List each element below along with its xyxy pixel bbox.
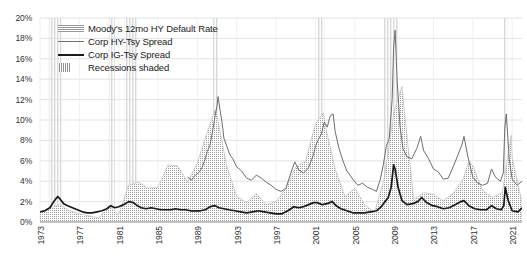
y-axis-label: 20% — [2, 13, 32, 23]
x-axis-label: 1993 — [233, 226, 243, 245]
legend-item-ig-spread: Corp IG-Tsy Spread — [58, 48, 218, 61]
y-axis-label: 0% — [2, 217, 32, 227]
y-axis-label: 4% — [2, 176, 32, 186]
y-axis-label: 10% — [2, 115, 32, 125]
x-axis-label: 1997 — [272, 226, 282, 245]
legend-label-ig-spread: Corp IG-Tsy Spread — [88, 49, 170, 60]
legend-swatch-shaded-band-icon — [58, 62, 84, 73]
x-axis-label: 2013 — [429, 226, 439, 245]
chart-container: 0%2%4%6%8%10%12%14%16%18%20% 19731977198… — [0, 0, 527, 260]
y-axis-label: 16% — [2, 54, 32, 64]
legend-swatch-thin-line-icon — [58, 36, 84, 47]
y-axis-label: 8% — [2, 135, 32, 145]
x-axis-label: 2021 — [508, 226, 518, 245]
legend-label-recessions: Recessions shaded — [88, 62, 169, 73]
x-axis-label: 1981 — [115, 226, 125, 245]
legend-item-hy-spread: Corp HY-Tsy Spread — [58, 35, 218, 48]
chart-legend: Moody's 12mo HY Default Rate Corp HY-Tsy… — [58, 22, 218, 74]
x-axis-label: 1989 — [193, 226, 203, 245]
y-axis-label: 14% — [2, 74, 32, 84]
x-axis-label: 2001 — [311, 226, 321, 245]
legend-label-default-rate: Moody's 12mo HY Default Rate — [88, 23, 218, 34]
legend-item-default-rate: Moody's 12mo HY Default Rate — [58, 22, 218, 35]
legend-label-hy-spread: Corp HY-Tsy Spread — [88, 36, 172, 47]
x-axis-label: 1977 — [75, 226, 85, 245]
x-axis-label: 2017 — [469, 226, 479, 245]
legend-swatch-hatched-area-icon — [58, 23, 84, 34]
x-axis-label: 2009 — [390, 226, 400, 245]
x-axis-label: 1985 — [154, 226, 164, 245]
y-axis-label: 12% — [2, 95, 32, 105]
x-axis-label: 1973 — [36, 226, 46, 245]
legend-swatch-thick-line-icon — [58, 49, 84, 60]
y-axis-label: 6% — [2, 156, 32, 166]
x-axis-label: 2005 — [351, 226, 361, 245]
y-axis-label: 2% — [2, 197, 32, 207]
y-axis-label: 18% — [2, 33, 32, 43]
legend-item-recessions: Recessions shaded — [58, 61, 218, 74]
